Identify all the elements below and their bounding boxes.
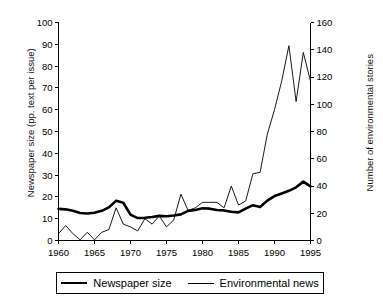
legend-line-swatch-thick [61,282,87,284]
y-axis-right: 020406080100120140160 [311,17,333,246]
x-axis-tick-label: 1995 [300,247,321,258]
x-axis-tick-label: 1965 [84,247,105,258]
y-axis-right-tick-label: 60 [317,153,328,164]
x-axis: 19601965197019751980198519901995 [48,241,321,258]
y-axis-left-tick-label: 20 [42,191,53,202]
y-axis-left-tick-label: 50 [42,126,53,137]
x-axis-tick-label: 1980 [192,247,213,258]
x-axis-tick-label: 1960 [48,247,69,258]
chart-legend: Newspaper size Environmental news [56,272,324,294]
x-axis-tick-label: 1970 [120,247,141,258]
y-axis-left: 0102030405060708090100 [37,17,59,246]
y-axis-right-tick-label: 0 [317,235,322,246]
y-axis-left-tick-label: 70 [42,82,53,93]
series-line-environmental-news [59,46,311,240]
chart-figure: Newspaper size (pp. text per issue) Numb… [0,0,383,308]
y-axis-left-tick-label: 0 [47,235,52,246]
y-axis-left-tick-label: 40 [42,148,53,159]
x-axis-tick-label: 1975 [156,247,177,258]
legend-label-newspaper-size: Newspaper size [93,277,171,289]
y-axis-left-tick-label: 80 [42,61,53,72]
legend-line-swatch-thin [188,283,214,284]
y-axis-right-tick-label: 40 [317,180,328,191]
data-series-group [59,46,311,240]
legend-label-environmental-news: Environmental news [220,277,319,289]
legend-item-newspaper-size: Newspaper size [61,277,171,289]
y-axis-left-tick-label: 90 [42,39,53,50]
y-axis-right-tick-label: 160 [317,17,333,28]
y-axis-right-tick-label: 80 [317,126,328,137]
series-line-newspaper-size [59,182,311,218]
y-axis-right-tick-label: 120 [317,71,333,82]
y-axis-left-tick-label: 100 [37,17,53,28]
y-axis-left-tick-label: 10 [42,213,53,224]
y-axis-left-tick-label: 60 [42,104,53,115]
y-axis-right-tick-label: 100 [317,99,333,110]
y-axis-right-tick-label: 140 [317,44,333,55]
y-axis-right-tick-label: 20 [317,208,328,219]
chart-plot-area: 0102030405060708090100 02040608010012014… [0,0,383,308]
legend-item-environmental-news: Environmental news [188,277,319,289]
x-axis-tick-label: 1990 [264,247,285,258]
x-axis-tick-label: 1985 [228,247,249,258]
y-axis-left-tick-label: 30 [42,170,53,181]
